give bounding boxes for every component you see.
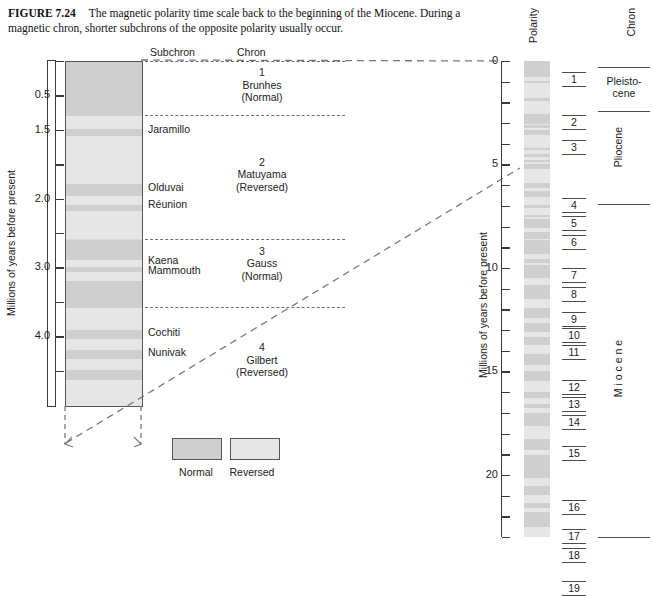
epoch-divider <box>598 111 650 112</box>
polarity-band-reversed <box>524 495 550 503</box>
legend-label-reversed: Reversed <box>228 466 276 478</box>
subchron-label: Nunivak <box>148 346 186 358</box>
left-tick-label: 3.0 <box>16 260 50 272</box>
polarity-band-normal <box>524 512 550 527</box>
polarity-legend: NormalReversed <box>172 438 280 478</box>
chron-number-rule <box>562 562 586 563</box>
polarity-band-normal <box>524 439 550 449</box>
polarity-band-normal <box>524 308 550 318</box>
polarity-band-normal <box>66 350 142 360</box>
chron-number: 1 <box>242 66 283 79</box>
chron-number-rule <box>562 249 586 250</box>
right-tick-label: 15 <box>476 364 498 376</box>
polarity-band-reversed <box>524 299 550 309</box>
polarity-band-reversed <box>524 169 550 183</box>
chron-polarity: (Reversed) <box>236 181 288 194</box>
chron-number: 7 <box>561 269 587 281</box>
right-tick <box>502 102 510 103</box>
right-tick <box>502 289 510 290</box>
subchron-label: Cochiti <box>148 326 180 338</box>
polarity-band-reversed <box>66 116 142 129</box>
right-tick <box>502 61 510 62</box>
chron-number: 5 <box>561 217 587 229</box>
legend-swatch-normal <box>172 438 222 460</box>
polarity-band-normal <box>524 240 550 253</box>
right-tick <box>502 475 510 476</box>
chron-number: 2 <box>236 156 288 169</box>
polarity-band-reversed <box>66 339 142 349</box>
chron-number-rule <box>562 282 586 283</box>
right-tick <box>502 247 510 248</box>
chron-number: 19 <box>561 582 587 594</box>
legend-swatch-reversed <box>230 438 280 460</box>
subchron-label: Mammouth <box>148 264 201 276</box>
chron-number-rule <box>562 429 586 430</box>
polarity-band-reversed <box>524 426 550 439</box>
polarity-band-reversed <box>66 260 142 267</box>
left-tick <box>55 95 64 96</box>
chron-number-rule <box>562 212 586 213</box>
chron-name: Gilbert <box>236 354 288 367</box>
chron-number: 17 <box>561 530 587 542</box>
chron-number-rule <box>562 359 586 360</box>
left-tick-label: 1.5 <box>16 123 50 135</box>
polarity-band-normal <box>524 413 550 426</box>
polarity-band-reversed <box>524 135 550 147</box>
figure-caption: FIGURE 7.24The magnetic polarity time sc… <box>8 6 478 36</box>
chron-number: 15 <box>561 447 587 459</box>
chron-number: 11 <box>561 346 587 358</box>
legend-swatches <box>172 438 280 464</box>
left-tick-label: 2.0 <box>16 192 50 204</box>
left-tick <box>55 267 64 268</box>
polarity-band-reversed <box>524 278 550 286</box>
polarity-band-normal <box>66 240 142 261</box>
right-tick <box>502 454 510 455</box>
polarity-band-reversed <box>524 208 550 215</box>
polarity-band-reversed <box>66 211 142 240</box>
right-tick-label: 0 <box>476 54 498 66</box>
right-tick <box>502 351 510 352</box>
figure-number: FIGURE 7.24 <box>8 7 76 19</box>
polarity-band-normal <box>66 184 142 196</box>
polarity-band-reversed <box>524 83 550 97</box>
chron-number-rule <box>562 230 586 231</box>
polarity-band-normal <box>524 265 550 277</box>
chron-header-right: Chron <box>625 8 637 39</box>
epoch-label: M i o c e n e <box>612 340 624 399</box>
polarity-band-reversed <box>524 105 550 114</box>
polarity-band-normal <box>66 370 142 380</box>
left-tick <box>55 164 64 165</box>
right-tick <box>502 537 510 538</box>
subchron-column-header: Subchron <box>150 46 195 58</box>
polarity-band-normal <box>524 337 550 345</box>
chron-polarity: (Reversed) <box>236 366 288 379</box>
chron-number-rule <box>562 301 586 302</box>
right-tick-label: 10 <box>476 261 498 273</box>
right-tick <box>502 516 510 517</box>
subchron-label: Réunion <box>148 198 187 210</box>
right-tick <box>502 185 510 186</box>
legend-labels: NormalReversed <box>172 466 280 478</box>
chron-column-header: Chron <box>237 46 266 58</box>
polarity-band-normal <box>524 323 550 331</box>
chron-number: 16 <box>561 501 587 513</box>
polarity-band-normal <box>524 232 550 239</box>
chron-boundary-dash <box>145 239 345 240</box>
chron-number-rule <box>562 129 586 130</box>
polarity-band-reversed <box>524 527 550 537</box>
chron-polarity: (Normal) <box>242 91 283 104</box>
polarity-band-reversed <box>66 359 142 370</box>
right-tick <box>502 123 510 124</box>
left-axis-bracket <box>47 60 48 407</box>
polarity-band-normal <box>524 486 550 495</box>
polarity-band-reversed <box>66 308 142 330</box>
polarity-band-reversed <box>66 136 142 185</box>
left-tick <box>55 199 64 200</box>
polarity-column-header: Polarity <box>527 8 539 45</box>
polarity-band-reversed <box>66 380 142 406</box>
left-tick <box>55 233 64 234</box>
chron-number-rule <box>562 326 586 327</box>
chron-number: 2 <box>561 116 587 128</box>
chron-label-block: 4Gilbert(Reversed) <box>236 341 288 379</box>
left-tick <box>55 371 64 372</box>
